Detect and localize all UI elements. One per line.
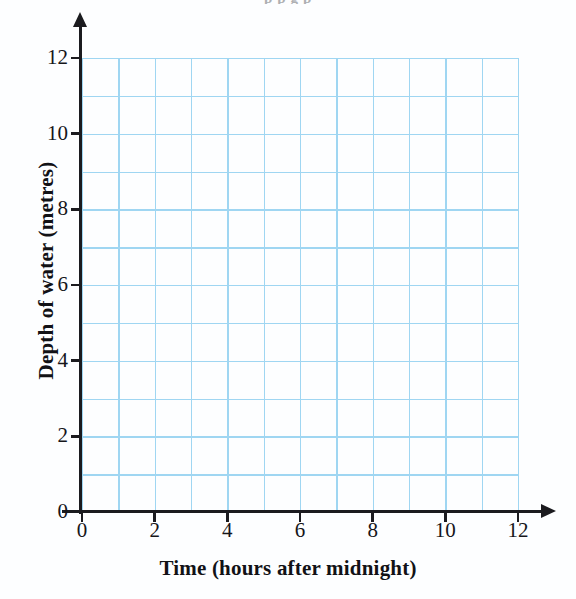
- y-axis-tick: [71, 284, 82, 287]
- x-axis-tick-label: 4: [207, 518, 247, 543]
- gridline-horizontal: [82, 247, 518, 248]
- gridline-horizontal: [82, 172, 518, 173]
- x-axis-tick-label: 2: [135, 518, 175, 543]
- chart-page: p p g p 024681012024681012 Time (hours a…: [0, 0, 576, 599]
- y-axis-tick-label: 2: [28, 423, 68, 448]
- gridline-horizontal: [82, 58, 518, 59]
- x-axis-tick-label: 10: [425, 518, 465, 543]
- x-axis-tick-label: 0: [62, 518, 102, 543]
- gridline-horizontal: [82, 323, 518, 324]
- gridline-horizontal: [82, 96, 518, 97]
- x-axis-tick-label: 12: [498, 518, 538, 543]
- y-axis-tick: [71, 208, 82, 211]
- y-axis-tick: [71, 57, 82, 60]
- y-axis-line: [79, 22, 82, 514]
- gridline-horizontal: [82, 436, 518, 437]
- gridline-horizontal: [82, 474, 518, 475]
- x-axis-tick-label: 8: [353, 518, 393, 543]
- gridline-horizontal: [82, 209, 518, 210]
- gridline-horizontal: [82, 399, 518, 400]
- y-axis-title: Depth of water (metres): [34, 121, 59, 421]
- y-axis-arrow-icon: [73, 12, 87, 27]
- y-axis-tick: [71, 359, 82, 362]
- plot-area: [82, 58, 518, 512]
- x-axis-title: Time (hours after midnight): [0, 556, 576, 581]
- x-axis-tick-label: 6: [280, 518, 320, 543]
- gridline-horizontal: [82, 285, 518, 286]
- y-axis-tick: [71, 435, 82, 438]
- gridline-horizontal: [82, 361, 518, 362]
- x-axis-line: [62, 510, 545, 513]
- gridline-horizontal: [82, 134, 518, 135]
- y-axis-tick-label: 12: [28, 45, 68, 70]
- y-axis-tick: [71, 132, 82, 135]
- gridline-vertical: [518, 58, 519, 512]
- x-axis-arrow-icon: [541, 504, 556, 518]
- cropped-heading-fragment: p p g p: [0, 0, 576, 4]
